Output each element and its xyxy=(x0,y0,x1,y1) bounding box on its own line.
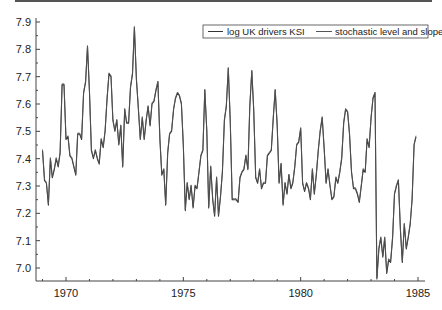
legend-label-ksi: log UK drivers KSI xyxy=(227,26,305,37)
y-tick-label: 7.8 xyxy=(16,43,31,55)
y-tick-label: 7.0 xyxy=(16,262,31,274)
y-tick-label: 7.3 xyxy=(16,180,31,192)
x-tick-label: 1975 xyxy=(171,287,195,299)
y-tick-label: 7.2 xyxy=(16,207,31,219)
y-tick-label: 7.4 xyxy=(16,153,31,165)
series-lines xyxy=(43,26,417,279)
line-chart: 7.07.17.27.37.47.57.67.77.87.91970197519… xyxy=(0,0,442,310)
y-tick-label: 7.9 xyxy=(16,16,31,28)
x-tick-label: 1985 xyxy=(406,287,430,299)
x-tick-label: 1980 xyxy=(288,287,312,299)
y-tick-label: 7.6 xyxy=(16,98,31,110)
x-tick-label: 1970 xyxy=(54,287,78,299)
y-tick-label: 7.7 xyxy=(16,71,31,83)
legend-label-level-slope: stochastic level and slope xyxy=(335,26,442,37)
series-line xyxy=(43,28,417,279)
y-tick-label: 7.1 xyxy=(16,235,31,247)
legend: log UK drivers KSI stochastic level and … xyxy=(203,25,442,38)
y-tick-label: 7.5 xyxy=(16,125,31,137)
series-line xyxy=(43,26,417,277)
